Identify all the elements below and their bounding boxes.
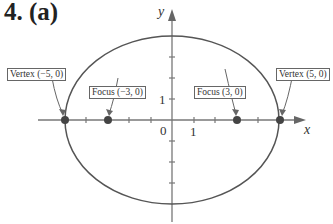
vertex-right-point <box>276 116 284 124</box>
vertex-left-point <box>61 116 69 124</box>
focus-left-point <box>104 116 112 124</box>
focus-right-label: Focus (3, 0) <box>194 86 246 99</box>
ellipse-diagram <box>0 0 333 224</box>
y-axis-arrow-icon <box>168 9 176 21</box>
vertex-left-arrow <box>52 78 63 114</box>
origin-label: 0 <box>160 123 167 139</box>
focus-right-point <box>233 116 241 124</box>
vertex-left-label: Vertex (−5, 0) <box>7 68 66 81</box>
y-axis-label: y <box>158 4 164 20</box>
y-tick-label-1: 1 <box>159 92 166 108</box>
focus-left-label: Focus (−3, 0) <box>89 86 146 99</box>
x-axis-label: x <box>304 122 310 138</box>
x-tick-label-1: 1 <box>190 124 197 140</box>
vertex-right-label: Vertex (5, 0) <box>276 68 330 81</box>
